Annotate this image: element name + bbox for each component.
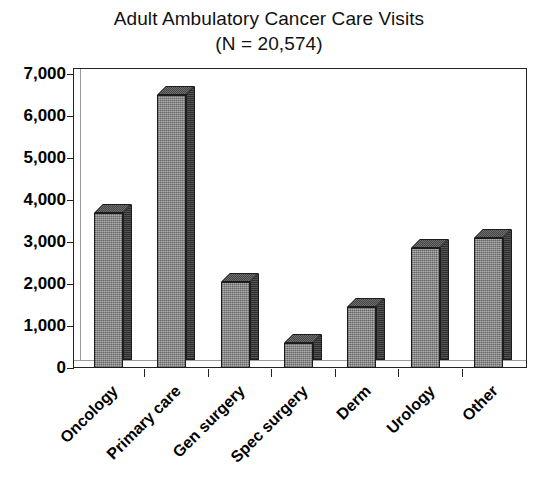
x-axis-tick-label: Urology xyxy=(383,382,438,437)
x-axis-tick-label: Derm xyxy=(333,382,375,424)
bar-chart-figure: Adult Ambulatory Cancer Care Visits (N =… xyxy=(0,0,538,491)
x-axis-tick-label: Oncology xyxy=(57,382,122,447)
x-axis-tick-label: Other xyxy=(459,382,502,425)
x-axis: OncologyPrimary careGen surgerySpec surg… xyxy=(0,0,538,491)
